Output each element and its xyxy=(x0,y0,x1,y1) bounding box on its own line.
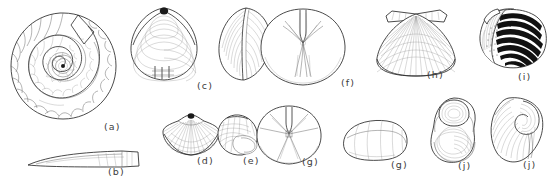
figure-oyster-coiled-umbo-shell: (j) xyxy=(487,95,547,165)
figure-brachiopod-ribbed-shell: (d) xyxy=(160,112,222,160)
figure-echinoid-sand-dollar-lateral: (g) xyxy=(339,118,409,162)
figure-label-g2: (g) xyxy=(391,159,408,170)
figure-echinoid-sand-dollar-aboral: (f) xyxy=(259,7,347,87)
figure-label-j: (j) xyxy=(458,160,471,171)
figure-echinoid-sand-dollar-oral: (g) xyxy=(255,104,323,166)
fossil-plate: (a) (b) xyxy=(0,0,552,186)
figure-label-f: (f) xyxy=(341,77,355,88)
figure-label-b: (b) xyxy=(108,166,125,177)
figure-label-c: (c) xyxy=(197,80,213,91)
figure-label-g: (g) xyxy=(302,156,319,167)
figure-ribbed-bivalve-dark-shell: (i) xyxy=(476,6,550,72)
figure-label-j2: (j) xyxy=(523,159,536,170)
figure-label-a: (a) xyxy=(104,121,121,132)
figure-oyster-concentric-shell: (j) xyxy=(424,96,486,164)
figure-scallop-pecten-shell: (h) xyxy=(372,4,460,78)
figure-label-d: (d) xyxy=(197,155,214,166)
figure-bivalve-clam-valve xyxy=(128,5,200,83)
figure-ammonite-coiled-shell: (a) xyxy=(6,4,124,124)
figure-elongate-tapering-shell: (b) xyxy=(26,150,146,176)
figure-label-i: (i) xyxy=(518,71,531,82)
figure-label-h: (h) xyxy=(427,69,444,80)
